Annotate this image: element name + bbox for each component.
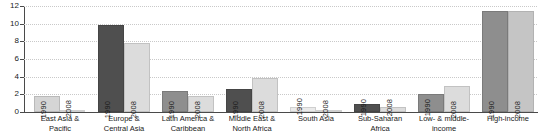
bar-group-east-asia-pacific: 2008 1990 (32, 6, 88, 112)
bar-group-europe-central-asia: 1990 2008 (96, 6, 152, 112)
x-label-europe-central-asia: Europe & Central Asia (88, 114, 160, 133)
bar-europe-central-asia-1990: 1990 (98, 25, 124, 113)
x-axis-labels: East Asia & Pacific Europe & Central Asi… (24, 114, 537, 136)
bar-group-south-asia: 1990 2008 (288, 6, 344, 112)
bar-middle-east-north-africa-2008: 2008 (252, 78, 278, 112)
x-label-south-asia: South Asia (280, 114, 352, 124)
y-tick-label-0: 0 (15, 108, 19, 116)
x-label-line1: South Asia (280, 114, 352, 124)
bar-group-sub-saharan-africa: 1990 2008 (352, 6, 408, 112)
x-axis-line (24, 112, 538, 113)
x-label-line2: income (408, 124, 480, 134)
x-label-line1: Europe & (88, 114, 160, 124)
x-label-latin-america-caribbean: Latin America & Caribbean (152, 114, 224, 133)
bar-east-asia-pacific-1990: 1990 (34, 96, 60, 112)
bar-low-middle-income-1990: 1990 (418, 94, 444, 112)
bar-europe-central-asia-2008: 2008 (124, 43, 150, 112)
x-label-line1: High-income (472, 114, 544, 124)
y-tick-label-10: 10 (10, 20, 19, 28)
x-label-line1: Sub-Saharan (344, 114, 416, 124)
x-label-line2: Africa (344, 124, 416, 134)
bar-south-asia-2008: 2008 (316, 110, 342, 112)
x-label-line2: North Africa (216, 124, 288, 134)
bar-low-middle-income-2008: 2008 (444, 86, 470, 112)
bar-east-asia-pacific-2008: 2008 (59, 110, 85, 112)
bar-high-income-1990: 1990 (482, 11, 508, 112)
x-label-middle-east-north-africa: Middle East & North Africa (216, 114, 288, 133)
bar-sub-saharan-africa-2008: 2008 (380, 107, 406, 112)
y-tick-label-6: 6 (15, 55, 19, 63)
x-label-low-middle-income: Low- & middle- income (408, 114, 480, 133)
x-label-line2: Caribbean (152, 124, 224, 134)
bar-latin-america-caribbean-1990: 1990 (162, 91, 188, 112)
bar-groups: 2008 1990 1990 2008 1990 2008 (24, 6, 537, 112)
bar-group-latin-america-caribbean: 1990 2008 (160, 6, 216, 112)
bar-group-middle-east-north-africa: 1990 2008 (224, 6, 280, 112)
y-tick-label-2: 2 (15, 90, 19, 98)
y-axis: 12 10 8 6 4 2 0 (0, 0, 22, 113)
bar-sub-saharan-africa-1990: 1990 (354, 104, 380, 112)
bar-high-income-2008: 2008 (508, 11, 534, 112)
bar-group-low-middle-income: 1990 2008 (416, 6, 472, 112)
bar-latin-america-caribbean-2008: 2008 (188, 96, 214, 112)
x-label-line1: Latin America & (152, 114, 224, 124)
bar-group-high-income: 1990 2008 (480, 6, 536, 112)
x-label-line1: Low- & middle- (408, 114, 480, 124)
y-tick-label-4: 4 (15, 73, 19, 81)
x-label-high-income: High-income (472, 114, 544, 124)
y-tick-label-12: 12 (10, 2, 19, 10)
x-label-line1: Middle East & (216, 114, 288, 124)
y-tick-label-8: 8 (15, 37, 19, 45)
x-label-east-asia-pacific: East Asia & Pacific (24, 114, 96, 133)
x-label-line2: Pacific (24, 124, 96, 134)
x-label-line1: East Asia & (24, 114, 96, 124)
x-label-sub-saharan-africa: Sub-Saharan Africa (344, 114, 416, 133)
bar-south-asia-1990: 1990 (290, 107, 316, 112)
x-label-line2: Central Asia (88, 124, 160, 134)
bar-chart: 12 10 8 6 4 2 0 2008 1990 (0, 0, 545, 136)
bar-middle-east-north-africa-1990: 1990 (226, 89, 252, 112)
